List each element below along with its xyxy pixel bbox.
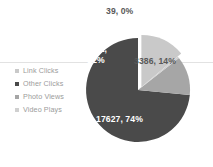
data-label-link-clicks: 3386, 14% [134,56,176,66]
pie-chart-widget: Link Clicks Other Clicks Photo Views Vid… [0,0,213,167]
legend-swatch-icon [15,69,19,73]
legend-swatch-icon [15,82,19,86]
legend-item-label: Video Plays [23,103,62,116]
pie-svg [60,18,213,167]
data-label-photo-views-value: 2772, [85,44,107,55]
legend-item-label: Other Clicks [23,77,63,90]
data-label-photo-views: 2772, 12% [85,44,107,66]
data-label-photo-views-percent: 12% [85,55,107,66]
legend-item-label: Photo Views [23,90,64,103]
legend-swatch-icon [15,108,19,112]
legend-item-label: Link Clicks [23,64,58,77]
legend-swatch-icon [15,95,19,99]
data-label-other-clicks: 17627, 74% [96,114,143,124]
data-label-video-plays: 39, 0% [106,6,133,16]
pie-plot-area: 39, 0% 2772, 12% 3386, 14% 17627, 74% [60,18,213,167]
